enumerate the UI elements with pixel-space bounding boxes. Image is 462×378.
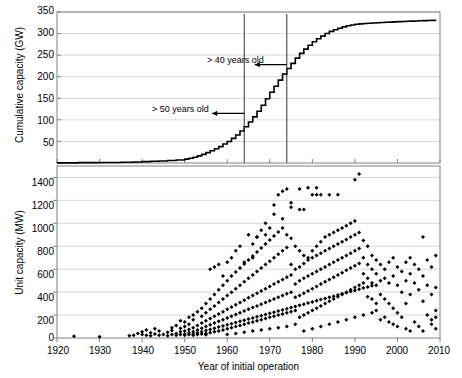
scatter-point (98, 335, 102, 339)
scatter-point (191, 318, 195, 322)
scatter-point (187, 315, 191, 319)
scatter-point (353, 315, 357, 319)
scatter-point (349, 290, 353, 294)
scatter-point (217, 288, 221, 292)
upper-ytick-200: 200 (26, 71, 54, 82)
scatter-point (336, 258, 340, 262)
scatter-point (272, 256, 276, 260)
scatter-point (327, 299, 331, 303)
scatter-point (178, 326, 182, 330)
scatter-point (200, 321, 204, 325)
lower-xtick-1980: 1980 (291, 345, 333, 356)
scatter-point (212, 326, 216, 330)
scatter-point (225, 279, 229, 283)
scatter-point (353, 233, 357, 237)
scatter-point (378, 292, 382, 296)
scatter-point (289, 205, 293, 209)
scatter-point (225, 307, 229, 311)
scatter-point (221, 283, 225, 287)
scatter-point (395, 283, 399, 287)
scatter-point (332, 297, 336, 301)
scatter-point (344, 268, 348, 272)
scatter-point (212, 321, 216, 325)
scatter-point (200, 326, 204, 330)
scatter-point (251, 242, 255, 246)
scatter-point (268, 299, 272, 303)
scatter-point (315, 193, 319, 197)
scatter-point (217, 312, 221, 316)
scatter-point (238, 283, 242, 287)
scatter-point (195, 333, 199, 337)
scatter-point (357, 231, 361, 235)
scatter-point (200, 330, 204, 334)
figure-root: Cumulative capacity (GW) 350 300 250 200… (0, 0, 462, 378)
scatter-point (400, 269, 404, 273)
scatter-point (434, 286, 438, 290)
scatter-point (353, 286, 357, 290)
scatter-point (255, 315, 259, 319)
scatter-point (204, 329, 208, 333)
scatter-point (229, 322, 233, 326)
scatter-point (242, 322, 246, 326)
scatter-point (234, 303, 238, 307)
scatter-point (383, 267, 387, 271)
scatter-point (302, 329, 306, 333)
lower-ytick-1000: 1000 (20, 223, 54, 234)
scatter-point (221, 310, 225, 314)
scatter-point (357, 287, 361, 291)
scatter-point (144, 328, 148, 332)
scatter-point (400, 315, 404, 319)
scatter-point (170, 329, 174, 333)
annotation-arrow-head-0 (212, 111, 217, 116)
scatter-point (293, 282, 297, 286)
scatter-point (276, 280, 280, 284)
scatter-point (183, 333, 187, 337)
scatter-point (408, 256, 412, 260)
upper-ytick-350: 350 (26, 5, 54, 16)
scatter-point (289, 273, 293, 277)
scatter-point (357, 261, 361, 265)
scatter-point (251, 306, 255, 310)
scatter-point (217, 319, 221, 323)
scatter-point (276, 295, 280, 299)
scatter-point (166, 330, 170, 334)
scatter-point (293, 295, 297, 299)
scatter-point (395, 311, 399, 315)
scatter-point (323, 265, 327, 269)
scatter-point (332, 275, 336, 279)
scatter-point (212, 292, 216, 296)
scatter-point (208, 297, 212, 301)
scatter-point (378, 279, 382, 283)
scatter-point (264, 300, 268, 304)
scatter-point (285, 307, 289, 311)
scatter-point (340, 292, 344, 296)
scatter-point (395, 265, 399, 269)
scatter-point (166, 334, 170, 338)
scatter-point (229, 326, 233, 330)
scatter-point (247, 258, 251, 262)
scatter-point (204, 302, 208, 306)
scatter-point (174, 331, 178, 335)
scatter-point (136, 331, 140, 335)
scatter-point (285, 292, 289, 296)
scatter-point (340, 292, 344, 296)
scatter-point (217, 263, 221, 267)
scatter-point (289, 290, 293, 294)
scatter-point (259, 246, 263, 250)
scatter-point (234, 249, 238, 253)
scatter-point (259, 228, 263, 232)
scatter-point (187, 322, 191, 326)
scatter-point (434, 253, 438, 257)
scatter-point (221, 328, 225, 332)
scatter-point (234, 270, 238, 274)
scatter-point (178, 319, 182, 323)
scatter-point (238, 319, 242, 323)
scatter-point (289, 310, 293, 314)
scatter-point (315, 244, 319, 248)
scatter-point (234, 321, 238, 325)
scatter-point (264, 317, 268, 321)
scatter-point (387, 281, 391, 285)
scatter-point (234, 312, 238, 316)
scatter-point (298, 279, 302, 283)
scatter-point (268, 311, 272, 315)
